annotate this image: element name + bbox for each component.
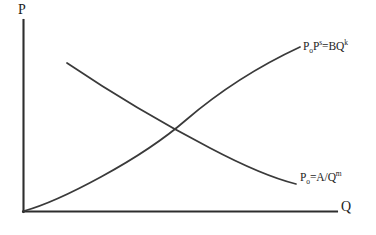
supply-label-subscript: o: [309, 46, 313, 55]
supply-curve: [24, 47, 300, 211]
demand-curve-label: Po=A/Qm: [300, 172, 342, 184]
demand-label-subscript: o: [306, 177, 310, 186]
demand-label-superscript-m: m: [336, 169, 342, 178]
supply-demand-figure: P Q PoPs=BQk Po=A/Qm: [0, 0, 376, 235]
chart-canvas: [0, 0, 376, 235]
x-axis-label: Q: [341, 200, 351, 214]
demand-label-rhs: =A/Q: [310, 171, 336, 183]
y-axis-label: P: [18, 3, 26, 17]
supply-curve-label: PoPs=BQk: [303, 41, 348, 53]
supply-label-rhs: =BQ: [322, 40, 344, 52]
supply-label-superscript-k: k: [344, 38, 348, 47]
supply-label-superscript-s: s: [319, 38, 322, 47]
